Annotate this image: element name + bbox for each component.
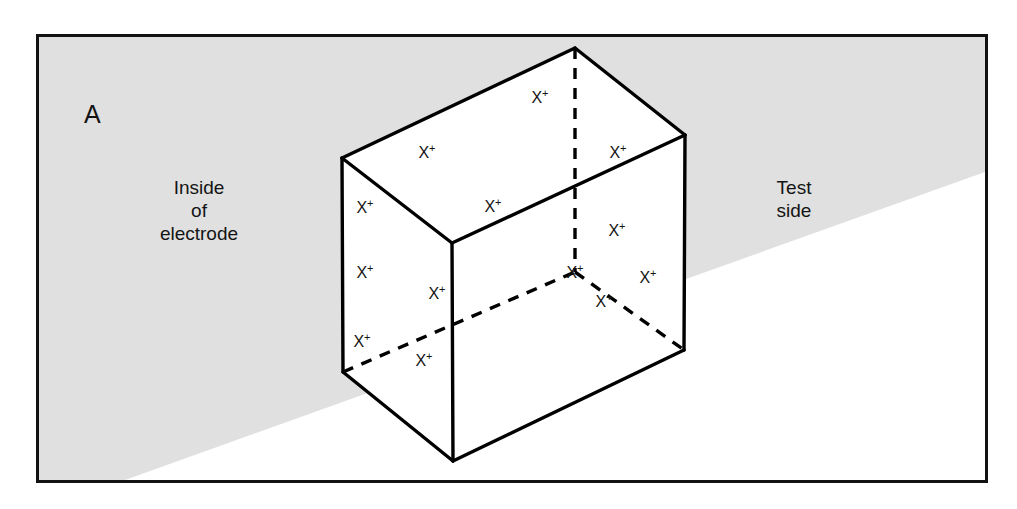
ion-marker-left-face-2: X+: [356, 262, 373, 282]
ion-symbol: X: [608, 222, 619, 239]
ion-marker-left-face-4: X+: [353, 331, 370, 351]
ion-charge: +: [619, 220, 625, 232]
ion-marker-right-face-2: X+: [639, 267, 656, 287]
ion-charge: +: [429, 142, 435, 154]
ion-charge: +: [620, 142, 626, 154]
ion-charge: +: [367, 262, 373, 274]
ion-symbol: X: [415, 352, 426, 369]
ion-marker-top-face-2: X+: [418, 142, 435, 162]
figure-page: A Inside of electrode Test side X+X+X+X+…: [0, 0, 1017, 509]
ion-marker-interior-1: X+: [566, 262, 583, 282]
ion-marker-top-face-3: X+: [609, 142, 626, 162]
ion-marker-right-face-1: X+: [608, 220, 625, 240]
ion-symbol: X: [484, 198, 495, 215]
ion-charge: +: [650, 267, 656, 279]
ion-symbol: X: [531, 89, 542, 106]
ion-symbol: X: [356, 199, 367, 216]
ion-symbol: X: [609, 144, 620, 161]
ion-symbol: X: [566, 264, 577, 281]
ion-charge: +: [577, 262, 583, 274]
ion-charge: +: [367, 197, 373, 209]
ion-charge: +: [364, 331, 370, 343]
ion-symbol: X: [418, 144, 429, 161]
ion-symbol: X: [639, 269, 650, 286]
ion-symbol: X: [356, 264, 367, 281]
ion-marker-right-face-3: X+: [595, 291, 612, 311]
ion-charge: +: [426, 350, 432, 362]
ion-charge: +: [542, 87, 548, 99]
ion-charge: +: [439, 283, 445, 295]
ion-marker-top-face-1: X+: [531, 87, 548, 107]
ion-charge: +: [495, 196, 501, 208]
ion-marker-left-face-1: X+: [356, 197, 373, 217]
ion-symbol: X: [595, 293, 606, 310]
ion-marker-top-face-4: X+: [484, 196, 501, 216]
figure-frame: A Inside of electrode Test side X+X+X+X+…: [36, 34, 988, 483]
ion-charge: +: [606, 291, 612, 303]
ion-marker-layer: X+X+X+X+X+X+X+X+X+X+X+X+X+: [39, 37, 985, 480]
ion-marker-left-face-3: X+: [428, 283, 445, 303]
ion-symbol: X: [353, 333, 364, 350]
ion-symbol: X: [428, 285, 439, 302]
ion-marker-left-face-5: X+: [415, 350, 432, 370]
